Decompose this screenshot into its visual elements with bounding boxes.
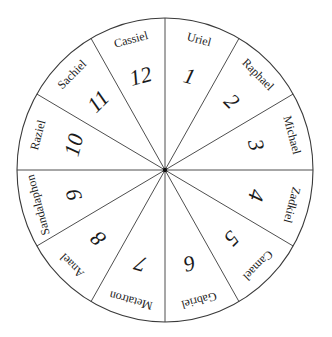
- wheel-hub: [163, 168, 167, 172]
- angel-wheel-diagram: Uriel1Raphael2Michael3Zadkiel4Camael5Gab…: [0, 0, 332, 337]
